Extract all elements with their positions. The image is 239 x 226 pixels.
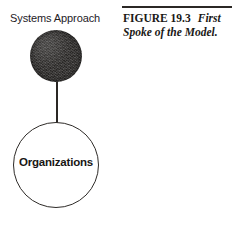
figure-number: FIGURE 19.3 (123, 12, 191, 24)
organizations-label: Organizations (13, 155, 99, 169)
systems-approach-label: Systems Approach (10, 12, 110, 25)
connector-line (56, 78, 58, 124)
caption-divider (122, 6, 232, 8)
systems-approach-diagram: Systems Approach Organizations (0, 0, 118, 226)
figure-page: Systems Approach Organizations FIGURE 19… (0, 0, 239, 226)
caption-text: FIGURE 19.3First Spoke of the Model. (123, 12, 234, 39)
systems-approach-node (30, 30, 82, 82)
